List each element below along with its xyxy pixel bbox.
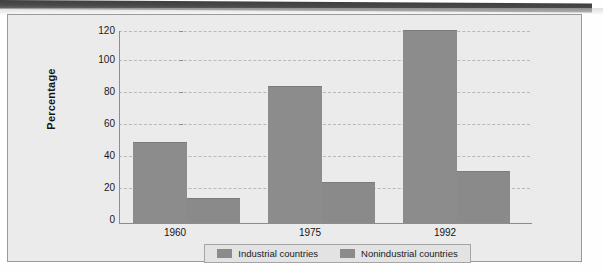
x-tick-label-1992: 1992 (415, 227, 475, 238)
bar-1960-industrial (133, 142, 187, 223)
legend-swatch-icon-nonindustrial (340, 249, 355, 258)
legend-item-nonindustrial: Nonindustrial countries (340, 248, 458, 259)
legend-item-industrial: Industrial countries (217, 248, 318, 259)
y-tick-label-0: 0 (75, 215, 115, 225)
x-tick-label-1960: 1960 (145, 227, 205, 238)
legend-label-industrial: Industrial countries (238, 248, 318, 259)
y-tick-label-40: 40 (75, 151, 115, 161)
x-axis-line (119, 223, 532, 224)
bar-1992-nonindustrial (457, 171, 510, 223)
page-root: 120 100 80 60 40 20 0 Percentage (0, 0, 603, 273)
chart-legend: Industrial countries Nonindustrial count… (204, 244, 471, 263)
y-tick-label-120: 120 (75, 26, 115, 36)
x-tick-label-1975: 1975 (280, 227, 340, 238)
bar-1960-nonindustrial (187, 198, 240, 223)
y-tick-label-60: 60 (75, 119, 115, 129)
y-tick-label-100: 100 (75, 55, 115, 65)
bar-1992-industrial (403, 30, 457, 223)
legend-label-nonindustrial: Nonindustrial countries (361, 248, 458, 259)
y-tick-label-20: 20 (75, 183, 115, 193)
bar-1975-industrial (268, 86, 322, 223)
y-axis-title: Percentage (45, 44, 57, 154)
y-tick-label-80: 80 (75, 87, 115, 97)
y-axis-ticks: 120 100 80 60 40 20 0 (71, 15, 115, 273)
chart-figure: 120 100 80 60 40 20 0 Percentage (7, 14, 582, 262)
bar-1975-nonindustrial (322, 182, 375, 223)
bars-layer (120, 31, 532, 223)
legend-swatch-icon-industrial (217, 249, 232, 258)
